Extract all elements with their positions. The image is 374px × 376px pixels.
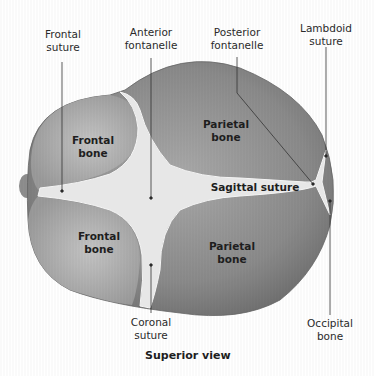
skull-diagram: Frontal suture Anterior fontanelle Poste…	[0, 0, 374, 376]
label-frontal-bone-upper: Frontal bone	[66, 134, 120, 160]
label-parietal-bone-upper: Parietal bone	[196, 118, 256, 144]
label-lambdoid-suture: Lambdoid suture	[297, 22, 355, 48]
label-occipital-bone: Occipital bone	[302, 317, 358, 343]
label-coronal-suture: Coronal suture	[126, 316, 176, 342]
label-sagittal-suture: Sagittal suture	[200, 181, 310, 194]
label-posterior-fontanelle: Posterior fontanelle	[206, 26, 268, 52]
label-parietal-bone-lower: Parietal bone	[202, 240, 262, 266]
label-frontal-suture: Frontal suture	[40, 28, 86, 54]
figure-caption: Superior view	[145, 349, 231, 362]
label-frontal-bone-lower: Frontal bone	[72, 230, 126, 256]
label-anterior-fontanelle: Anterior fontanelle	[120, 26, 182, 52]
